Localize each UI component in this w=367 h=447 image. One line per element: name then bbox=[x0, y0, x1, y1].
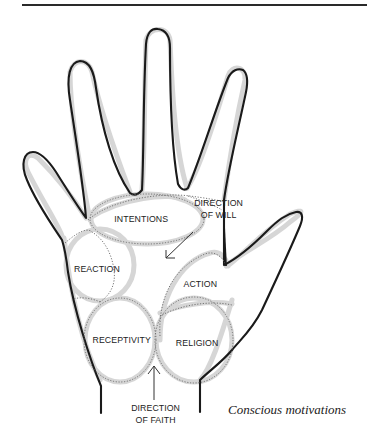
direction-of-faith-line1: DIRECTION bbox=[131, 402, 180, 414]
hand-illustration bbox=[0, 0, 367, 447]
zone-label-action: ACTION bbox=[183, 278, 217, 290]
zone-label-receptivity: RECEPTIVITY bbox=[93, 334, 151, 346]
direction-of-will-line1: DIRECTION bbox=[194, 197, 243, 209]
direction-of-faith-line2: OF FAITH bbox=[131, 414, 180, 426]
zone-label-intentions: INTENTIONS bbox=[114, 213, 168, 225]
direction-of-will-line2: OF WILL bbox=[194, 209, 243, 221]
stipple-shading bbox=[26, 30, 301, 383]
direction-of-faith-arrow bbox=[148, 366, 160, 400]
figure-caption: Conscious motivations bbox=[228, 402, 346, 418]
direction-of-faith-label: DIRECTION OF FAITH bbox=[131, 402, 180, 425]
zone-label-religion: RELIGION bbox=[176, 337, 219, 349]
zone-label-reaction: REACTION bbox=[74, 263, 120, 275]
direction-of-will-label: DIRECTION OF WILL bbox=[194, 197, 243, 220]
direction-of-will-arrow bbox=[166, 232, 193, 258]
